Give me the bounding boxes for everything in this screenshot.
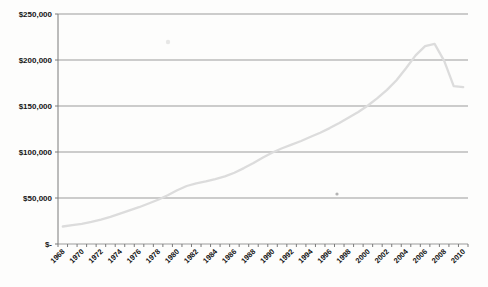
data-series-line [63,44,463,227]
x-axis-label: 1984 [201,246,220,265]
x-axis-label: 1980 [163,247,181,265]
y-axis-label: $- [45,240,52,249]
x-axis-label: 2000 [354,247,372,265]
x-axis-label: 1996 [315,247,333,265]
x-axis-label: 1986 [220,247,238,265]
y-axis-label: $50,000 [23,194,52,203]
x-axis-label: 1976 [125,247,143,265]
x-axis-label: 1974 [106,246,125,265]
x-axis-label: 1994 [296,246,315,265]
x-axis-label: 1968 [49,247,67,265]
x-axis-label: 1998 [335,247,353,265]
x-axis-label: 1982 [182,247,200,265]
y-axis-label: $100,000 [19,148,53,157]
x-axis-label: 2002 [373,247,391,265]
x-axis-label: 2006 [411,247,429,265]
x-axis-label: 1970 [68,247,86,265]
scan-speck [166,40,170,44]
x-axis-label: 2010 [449,247,467,265]
x-axis-label: 1990 [258,247,276,265]
y-axis-label: $200,000 [19,56,53,65]
line-chart: $-$50,000$100,000$150,000$200,000$250,00… [0,0,488,287]
y-axis-label: $250,000 [19,10,53,19]
y-axis-label: $150,000 [19,102,53,111]
x-axis-label: 1978 [144,247,162,265]
x-axis-label: 1988 [239,247,257,265]
chart-canvas: $-$50,000$100,000$150,000$200,000$250,00… [0,0,488,287]
x-axis-label: 1992 [277,247,295,265]
scan-speck [335,192,338,195]
x-axis-label: 1972 [87,247,105,265]
x-axis-label: 2008 [430,247,448,265]
x-axis-label: 2004 [392,246,411,265]
